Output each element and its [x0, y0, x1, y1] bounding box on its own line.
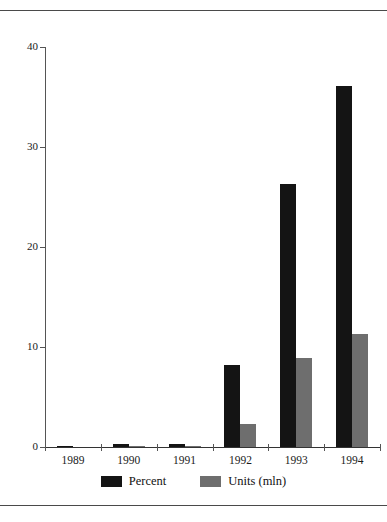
- x-axis-tick-label: 1989: [43, 454, 103, 467]
- x-axis-tick-label: 1992: [210, 454, 270, 467]
- y-axis-tick-label: 40: [0, 41, 38, 52]
- x-axis-tick: [268, 444, 269, 451]
- x-axis-tick-label: 1993: [266, 454, 326, 467]
- bottom-rule: [0, 505, 387, 506]
- x-axis-tick: [101, 444, 102, 451]
- legend-label: Units (mln): [228, 474, 286, 488]
- bar-units-mln-1990: [129, 446, 145, 448]
- y-axis-tick-label: 0: [0, 441, 38, 452]
- y-axis-tick: [40, 47, 46, 48]
- y-axis-tick-label: 10: [0, 341, 38, 352]
- bar-percent-1994: [336, 86, 352, 447]
- bar-percent-1991: [169, 444, 185, 447]
- top-rule: [0, 10, 387, 11]
- x-axis-tick-label: 1991: [155, 454, 215, 467]
- chart-figure: 010203040 198919901991199219931994 Perce…: [0, 0, 387, 522]
- x-axis-tick-label: 1994: [322, 454, 382, 467]
- y-axis-tick: [40, 147, 46, 148]
- gray-swatch-icon: [200, 476, 221, 487]
- x-axis-tick: [213, 444, 214, 451]
- bar-units-mln-1992: [240, 424, 256, 447]
- bar-units-mln-1993: [296, 358, 312, 447]
- legend-label: Percent: [129, 474, 166, 488]
- y-axis-tick-label: 30: [0, 141, 38, 152]
- bar-percent-1989: [57, 446, 73, 448]
- bar-percent-1993: [280, 184, 296, 447]
- y-axis-tick-label: 20: [0, 241, 38, 252]
- bar-percent-1990: [113, 444, 129, 447]
- legend-entry: Percent: [101, 474, 166, 488]
- bar-units-mln-1991: [185, 446, 201, 448]
- legend-entry: Units (mln): [200, 474, 286, 488]
- x-axis-tick: [380, 444, 381, 451]
- plot-area: 010203040 198919901991199219931994: [0, 14, 387, 454]
- x-axis-tick-label: 1990: [99, 454, 159, 467]
- x-axis-tick: [157, 444, 158, 451]
- x-axis-tick: [45, 444, 46, 451]
- y-axis-tick: [40, 347, 46, 348]
- bar-percent-1992: [224, 365, 240, 447]
- chart-legend: PercentUnits (mln): [0, 470, 387, 492]
- y-axis-tick: [40, 247, 46, 248]
- bar-units-mln-1994: [352, 334, 368, 447]
- black-swatch-icon: [101, 476, 122, 487]
- x-axis-tick: [324, 444, 325, 451]
